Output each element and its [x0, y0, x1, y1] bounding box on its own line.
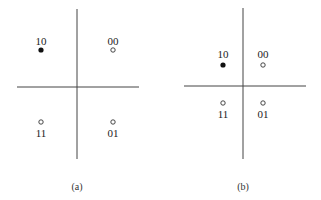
point-label: 10	[218, 48, 230, 60]
caption: (a)	[71, 181, 82, 193]
constellation-figure: 10 00 11 01 (a) 10 00 11 01 (b)	[0, 0, 321, 200]
point-filled-icon	[38, 47, 43, 52]
point-label: 00	[108, 35, 120, 47]
point-hollow-icon	[221, 101, 225, 105]
point-hollow-icon	[261, 63, 265, 67]
point-hollow-icon	[111, 120, 115, 124]
point-label: 01	[258, 108, 269, 120]
constellation-diagram-a: 10 00 11 01 (a)	[17, 9, 139, 193]
point-hollow-icon	[261, 101, 265, 105]
point-label: 01	[108, 127, 119, 139]
point-label: 10	[36, 35, 48, 47]
caption: (b)	[237, 181, 249, 193]
point-hollow-icon	[39, 120, 43, 124]
point-label: 11	[36, 127, 47, 139]
point-filled-icon	[220, 62, 225, 67]
constellation-diagram-b: 10 00 11 01 (b)	[184, 8, 306, 193]
point-label: 11	[218, 108, 229, 120]
point-hollow-icon	[111, 48, 115, 52]
point-label: 00	[258, 48, 270, 60]
